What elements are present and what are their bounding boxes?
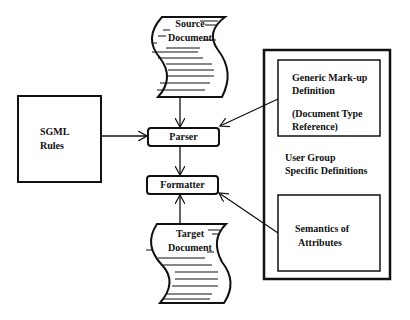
parser-label: Parser <box>148 130 219 144</box>
user-group-label: User Group Specific Definitions <box>285 151 368 177</box>
formatter-label: Formatter <box>147 178 218 192</box>
semantics-label: Semantics of Attributes <box>295 222 349 250</box>
source-document-label: Source Document <box>150 17 230 45</box>
sgml-rules-label: SGML Rules <box>40 125 69 153</box>
sgml-processing-diagram: Source Document Target Document SGML Rul… <box>0 0 410 320</box>
target-document-label: Target Document <box>150 227 230 255</box>
gmd-label: Generic Mark-up Definition (Document Typ… <box>292 71 367 133</box>
